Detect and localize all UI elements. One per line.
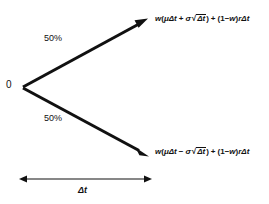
formula-down-sign: − xyxy=(179,147,184,156)
formula-up-paren-close: ) xyxy=(206,14,209,23)
formula-up-sqrt: √Δt xyxy=(191,14,206,23)
formula-up-r-dt: rΔt xyxy=(238,14,249,23)
formula-up-radicand: Δt xyxy=(196,14,206,23)
formula-down-plus: + xyxy=(211,147,216,156)
time-axis-arrow xyxy=(19,175,152,182)
branch-down-outcome-formula: w(μΔt−σ√Δt)+(1−w)rΔt xyxy=(155,147,249,156)
formula-down-paren-close: ) xyxy=(206,147,209,156)
branch-up-probability-label: 50% xyxy=(44,34,62,43)
branch-down-arrow xyxy=(23,88,149,157)
formula-up-plus: + xyxy=(211,14,216,23)
branch-up-outcome-formula: w(μΔt+σ√Δt)+(1−w)rΔt xyxy=(155,14,249,23)
formula-down-one-minus-w: (1−w) xyxy=(218,147,239,156)
diagram-canvas: 0 50% 50% w(μΔt+σ√Δt)+(1−w)rΔt w(μΔt−σ√Δ… xyxy=(0,0,269,204)
formula-up-one-minus-w: (1−w) xyxy=(218,14,239,23)
formula-up-mu-dt: μΔt xyxy=(164,14,177,23)
binomial-tree-graphic xyxy=(0,0,269,204)
branch-up-arrow xyxy=(23,19,148,88)
formula-down-radicand: Δt xyxy=(196,147,206,156)
formula-down-mu-dt: μΔt xyxy=(164,147,177,156)
branch-down-probability-label: 50% xyxy=(44,114,62,123)
formula-up-sign: + xyxy=(179,14,184,23)
origin-node-label: 0 xyxy=(6,80,12,90)
time-axis-label: Δt xyxy=(78,186,87,195)
formula-down-r-dt: rΔt xyxy=(238,147,249,156)
formula-down-sqrt: √Δt xyxy=(191,147,206,156)
